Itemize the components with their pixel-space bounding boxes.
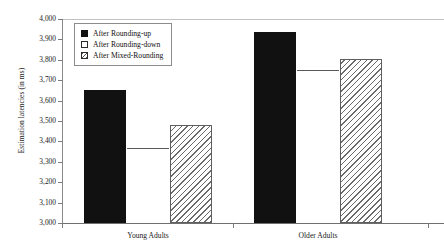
legend-item-label: After Mixed-Rounding bbox=[93, 51, 163, 60]
x-axis-tick bbox=[233, 223, 234, 228]
plot-top-border bbox=[62, 19, 444, 20]
bar-young-adults-after-rounding-up bbox=[84, 90, 126, 223]
y-axis-label: 3,000 bbox=[8, 219, 56, 227]
bar-older-adults-after-rounding-up bbox=[254, 32, 296, 223]
y-axis-tick bbox=[58, 182, 63, 183]
bar-young-adults-after-rounding-down bbox=[127, 148, 169, 223]
legend-swatch-open-icon bbox=[81, 41, 88, 48]
x-axis-line bbox=[62, 223, 444, 224]
x-axis-tick bbox=[62, 223, 63, 228]
y-axis-tick bbox=[58, 162, 63, 163]
y-axis-tick bbox=[58, 60, 63, 61]
bar-older-adults-after-mixed-rounding bbox=[340, 59, 382, 223]
y-axis-tick bbox=[58, 121, 63, 122]
y-axis-label: 3,800 bbox=[8, 56, 56, 64]
y-axis-label: 3,400 bbox=[8, 137, 56, 145]
x-axis-label: Older Adults bbox=[268, 231, 368, 240]
y-axis-tick bbox=[58, 39, 63, 40]
y-axis-label: 3,200 bbox=[8, 178, 56, 186]
legend-swatch-solid-icon bbox=[81, 30, 88, 37]
x-axis-label: Young Adults bbox=[98, 231, 198, 240]
y-axis-tick bbox=[58, 203, 63, 204]
bar-young-adults-after-mixed-rounding bbox=[170, 125, 212, 223]
y-axis-label: 3,700 bbox=[8, 76, 56, 84]
y-axis-label: 3,900 bbox=[8, 35, 56, 43]
x-axis-tick bbox=[428, 223, 429, 228]
legend-item-label: After Rounding-down bbox=[93, 40, 160, 49]
legend-item: After Mixed-Rounding bbox=[81, 50, 163, 61]
legend-item-label: After Rounding-up bbox=[93, 29, 151, 38]
y-axis-label: 3,100 bbox=[8, 199, 56, 207]
y-axis-tick bbox=[58, 80, 63, 81]
y-axis-label: 3,500 bbox=[8, 117, 56, 125]
legend-item: After Rounding-down bbox=[81, 39, 163, 50]
bar-chart: Estimation latencies (in ms) 4,0003,9003… bbox=[0, 0, 444, 252]
y-axis-tick bbox=[58, 141, 63, 142]
legend-swatch-hatch-icon bbox=[81, 52, 88, 59]
legend-item: After Rounding-up bbox=[81, 28, 163, 39]
y-axis-tick bbox=[58, 19, 63, 20]
y-axis-label: 3,600 bbox=[8, 97, 56, 105]
y-axis-label: 3,300 bbox=[8, 158, 56, 166]
y-axis-tick bbox=[58, 101, 63, 102]
bar-older-adults-after-rounding-down bbox=[297, 70, 339, 223]
chart-legend: After Rounding-up After Rounding-down Af… bbox=[74, 23, 172, 66]
y-axis-label: 4,000 bbox=[8, 15, 56, 23]
